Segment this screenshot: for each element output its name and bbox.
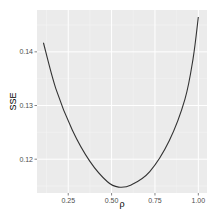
panel-background bbox=[37, 10, 207, 193]
x-axis: 0.250.500.751.00 bbox=[61, 193, 205, 204]
y-tick-label: 0.14 bbox=[19, 48, 33, 55]
y-axis: 0.120.130.14 bbox=[19, 48, 37, 162]
x-axis-title: ρ bbox=[119, 199, 124, 209]
x-tick-label: 0.50 bbox=[105, 197, 119, 204]
sse-vs-rho-chart: 0.120.130.14 0.250.500.751.00 ρ SSE bbox=[0, 0, 219, 217]
y-tick-label: 0.13 bbox=[19, 102, 33, 109]
y-axis-title: SSE bbox=[8, 92, 18, 110]
x-tick-label: 0.75 bbox=[148, 197, 162, 204]
x-tick-label: 0.25 bbox=[61, 197, 75, 204]
x-tick-label: 1.00 bbox=[192, 197, 206, 204]
y-tick-label: 0.12 bbox=[19, 156, 33, 163]
